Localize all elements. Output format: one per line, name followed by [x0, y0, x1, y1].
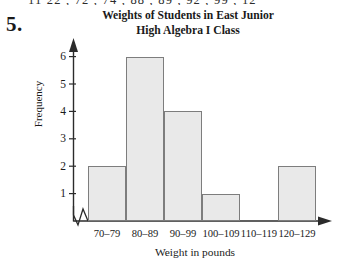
histogram-bar — [202, 194, 240, 221]
y-tick-label-1: 1 — [50, 188, 66, 200]
x-tick-label-120-129: 120–129 — [272, 228, 322, 239]
histogram-plot: Frequency 1 2 3 4 5 6 70–79 80–89 90–99 … — [0, 0, 338, 268]
histogram-bar — [126, 57, 164, 221]
histogram-bar — [164, 111, 202, 221]
y-tick-label-5: 5 — [50, 79, 66, 91]
x-axis-label: Weight in pounds — [80, 246, 310, 258]
y-axis-arrow-icon — [69, 38, 78, 52]
y-axis-ticks — [69, 57, 76, 194]
y-tick-label-4: 4 — [50, 106, 66, 118]
y-tick-label-2: 2 — [50, 161, 66, 173]
axis-break-icon — [74, 206, 89, 225]
y-tick-label-6: 6 — [50, 51, 66, 63]
histogram-bar — [278, 166, 316, 221]
y-axis-label: Frequency — [32, 61, 44, 147]
x-axis-arrow-icon — [318, 217, 332, 226]
histogram-bar — [88, 166, 126, 221]
y-tick-label-3: 3 — [50, 133, 66, 145]
